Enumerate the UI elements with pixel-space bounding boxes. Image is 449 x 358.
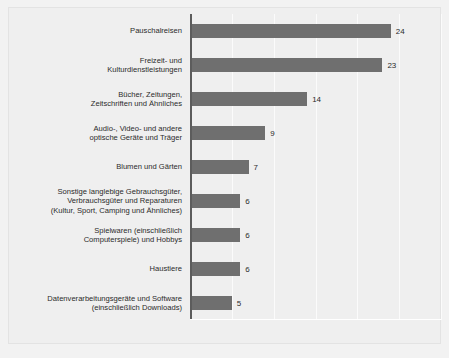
bar	[190, 262, 240, 276]
category-label: Bücher, Zeitungen, Zeitschriften und Ähn…	[0, 90, 182, 109]
bar	[190, 92, 307, 106]
bar-value-label: 7	[254, 163, 258, 172]
gridline	[441, 14, 442, 320]
bar-chart: Pauschalreisen24Freizeit- und Kulturdien…	[0, 0, 449, 358]
bar-row: Haustiere6	[190, 252, 441, 286]
bar-value-label: 6	[245, 265, 249, 274]
category-label: Freizeit- und Kulturdienstleistungen	[0, 56, 182, 75]
x-axis-line	[190, 319, 441, 320]
category-label: Datenverarbeitungsgeräte und Software (e…	[0, 294, 182, 313]
bar-value-label: 14	[312, 95, 321, 104]
bar	[190, 126, 265, 140]
bar-value-label: 6	[245, 197, 249, 206]
plot-area: Pauschalreisen24Freizeit- und Kulturdien…	[190, 14, 441, 320]
bar	[190, 160, 249, 174]
bar-value-label: 6	[245, 231, 249, 240]
bar	[190, 194, 240, 208]
category-label: Haustiere	[0, 264, 182, 273]
bar	[190, 58, 382, 72]
bar-value-label: 9	[270, 129, 274, 138]
bar	[190, 228, 240, 242]
bar-value-label: 5	[237, 299, 241, 308]
bar-row: Audio-, Video- und andere optische Gerät…	[190, 116, 441, 150]
category-label: Spielwaren (einschließlich Computerspiel…	[0, 226, 182, 245]
category-label: Sonstige langlebige Gebrauchsgüter, Verb…	[0, 187, 182, 215]
category-label: Audio-, Video- und andere optische Gerät…	[0, 124, 182, 143]
bar-row: Bücher, Zeitungen, Zeitschriften und Ähn…	[190, 82, 441, 116]
y-axis-line	[190, 14, 192, 320]
category-label: Pauschalreisen	[0, 26, 182, 35]
bar-row: Spielwaren (einschließlich Computerspiel…	[190, 218, 441, 252]
bar-value-label: 23	[387, 61, 396, 70]
bar-row: Freizeit- und Kulturdienstleistungen23	[190, 48, 441, 82]
bar-row: Blumen und Gärten7	[190, 150, 441, 184]
bar-row: Datenverarbeitungsgeräte und Software (e…	[190, 286, 441, 320]
bar-row: Pauschalreisen24	[190, 14, 441, 48]
bar-row: Sonstige langlebige Gebrauchsgüter, Verb…	[190, 184, 441, 218]
bar	[190, 296, 232, 310]
bar	[190, 24, 391, 38]
category-label: Blumen und Gärten	[0, 162, 182, 171]
bar-value-label: 24	[396, 27, 405, 36]
